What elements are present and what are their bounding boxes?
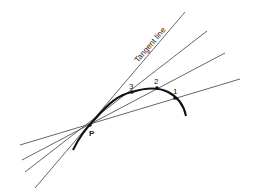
point-label-2: 2 bbox=[154, 77, 159, 86]
point-label-1: 1 bbox=[173, 87, 178, 96]
point-label-3: 3 bbox=[129, 82, 134, 91]
point-1 bbox=[173, 96, 177, 100]
point-p bbox=[88, 123, 92, 127]
tangent-diagram: Tangent line P 321 bbox=[0, 0, 253, 195]
tangent-line bbox=[35, 12, 185, 188]
point-2 bbox=[155, 86, 159, 90]
secant-line-2 bbox=[22, 53, 225, 160]
point-p-label: P bbox=[89, 129, 95, 138]
secant-lines bbox=[20, 31, 240, 172]
diagram-canvas: Tangent line P 321 bbox=[0, 0, 253, 195]
tangent-line-label: Tangent line bbox=[133, 25, 168, 64]
curve bbox=[73, 89, 186, 150]
